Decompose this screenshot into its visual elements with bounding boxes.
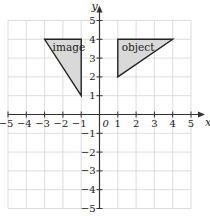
x-tick-label: 4 bbox=[170, 118, 176, 129]
object-label: object bbox=[122, 41, 155, 53]
y-tick-label: −1 bbox=[81, 128, 96, 139]
y-tick-label: −4 bbox=[81, 184, 96, 195]
x-axis-arrow-icon bbox=[198, 112, 205, 118]
y-tick-label: 1 bbox=[89, 90, 95, 101]
image-label: image bbox=[53, 41, 86, 53]
y-tick-label: −3 bbox=[81, 165, 96, 176]
y-tick-label: −2 bbox=[81, 147, 96, 158]
x-tick-label: 3 bbox=[151, 118, 157, 129]
x-tick-label: −2 bbox=[54, 118, 69, 129]
x-tick-label: 5 bbox=[188, 118, 194, 129]
y-tick-label: 2 bbox=[89, 71, 95, 82]
y-tick-label: 3 bbox=[89, 53, 95, 64]
x-tick-label: −5 bbox=[0, 118, 13, 129]
y-tick-label: 5 bbox=[89, 15, 95, 26]
x-tick-label: −3 bbox=[35, 118, 50, 129]
x-tick-label: −4 bbox=[17, 118, 32, 129]
origin-label: 0 bbox=[103, 118, 110, 129]
x-axis-label: x bbox=[205, 116, 210, 129]
axes bbox=[8, 6, 205, 209]
x-tick-label: 1 bbox=[115, 118, 121, 129]
y-tick-label: −5 bbox=[81, 203, 96, 214]
coordinate-grid: −5−4−3−2−11234554321−1−2−3−4−50xyobjecti… bbox=[0, 0, 210, 216]
y-axis-label: y bbox=[91, 0, 99, 13]
y-tick-label: 4 bbox=[89, 34, 95, 45]
x-tick-label: 2 bbox=[133, 118, 139, 129]
